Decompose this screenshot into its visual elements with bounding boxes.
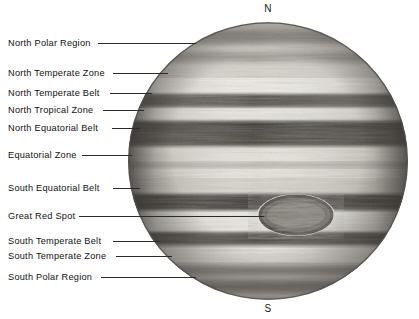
- label-south-polar-region: South Polar Region: [8, 272, 92, 282]
- leader-line-north-polar-region: [98, 43, 196, 44]
- leader-line-equatorial-zone: [82, 155, 132, 156]
- label-north-equatorial-belt: North Equatorial Belt: [8, 123, 98, 133]
- leader-line-south-polar-region: [101, 277, 196, 278]
- south-pole-label: S: [258, 303, 278, 314]
- label-north-temperate-belt: North Temperate Belt: [8, 88, 100, 98]
- leader-line-north-temperate-zone: [113, 73, 168, 74]
- leader-line-south-temperate-zone: [116, 256, 172, 257]
- label-equatorial-zone: Equatorial Zone: [8, 150, 77, 160]
- jupiter-disc: [128, 22, 408, 300]
- jupiter-image: [128, 22, 408, 300]
- figure-canvas: N S North Polar RegionNorth Temperate Zo…: [0, 0, 419, 319]
- label-north-polar-region: North Polar Region: [8, 38, 91, 48]
- label-north-tropical-zone: North Tropical Zone: [8, 105, 93, 115]
- label-north-temperate-zone: North Temperate Zone: [8, 68, 105, 78]
- label-south-equatorial-belt: South Equatorial Belt: [8, 183, 100, 193]
- north-pole-label: N: [258, 3, 278, 14]
- label-south-temperate-zone: South Temperate Zone: [8, 251, 106, 261]
- label-south-temperate-belt: South Temperate Belt: [8, 236, 101, 246]
- leader-line-north-tropical-zone: [103, 110, 144, 111]
- leader-line-north-equatorial-belt: [112, 128, 140, 129]
- leader-line-south-equatorial-belt: [113, 188, 140, 189]
- label-great-red-spot: Great Red Spot: [8, 211, 75, 221]
- leader-line-great-red-spot: [79, 216, 264, 217]
- leader-line-north-temperate-belt: [110, 93, 152, 94]
- leader-line-south-temperate-belt: [113, 241, 160, 242]
